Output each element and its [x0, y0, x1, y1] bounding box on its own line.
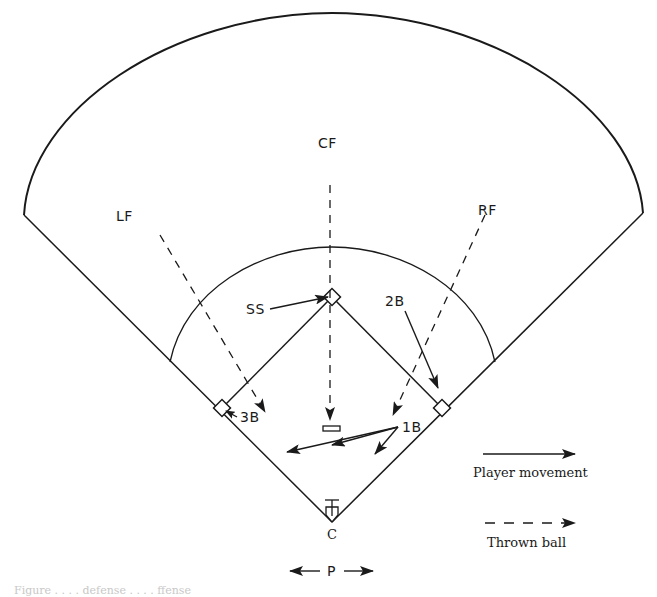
basepath-third-second — [222, 297, 332, 408]
basepath-second-first — [332, 297, 442, 408]
label-2b: 2B — [385, 294, 405, 308]
label-rf: RF — [478, 203, 497, 217]
move-ss — [270, 297, 328, 309]
label-3b: 3B — [240, 410, 260, 424]
left-foul-line — [24, 215, 332, 522]
label-p: P — [327, 564, 336, 578]
label-cf: CF — [318, 136, 337, 150]
legend-thrown-ball: Thrown ball — [487, 536, 566, 549]
outfield-fence — [24, 13, 643, 215]
label-c: C — [327, 528, 337, 541]
legend-player-movement: Player movement — [473, 466, 588, 479]
move-1b-b — [332, 427, 398, 445]
figure-caption: Figure . . . . defense . . . . ffense — [14, 585, 191, 596]
throw-lf — [160, 235, 265, 412]
label-ss: SS — [246, 302, 265, 316]
label-1b: 1B — [402, 420, 422, 434]
pitchers-rubber — [323, 426, 340, 431]
label-lf: LF — [116, 209, 133, 223]
move-3b — [226, 411, 237, 417]
move-1b-a — [287, 427, 398, 452]
